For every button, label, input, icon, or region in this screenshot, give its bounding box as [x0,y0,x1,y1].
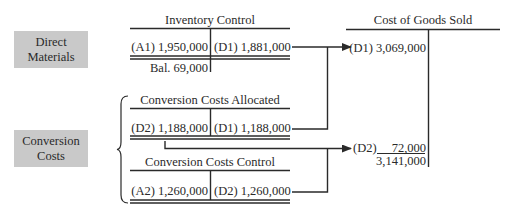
direct-materials-line2: Materials [27,50,74,65]
d1-cca-connector [292,47,328,129]
cogs-d2-amount: 72,000 [376,141,426,155]
d2-arrow [165,141,351,149]
conversion-costs-line1: Conversion [22,134,80,149]
cca-credit: (D1) 1,188,000 [214,121,291,135]
cogs-d1-entry: (D1) 3,069,000 [346,41,426,55]
cogs-d2-label: (D2) [353,141,377,155]
brace-icon [117,96,128,203]
conversion-costs-line2: Costs [37,149,65,164]
conversion-costs-box: Conversion Costs [14,130,88,167]
inventory-control-credit: (D1) 1,881,000 [214,40,291,54]
ccc-credit: (D2) 1,260,000 [214,184,291,198]
inventory-control-debit: (A1) 1,950,000 [128,40,208,54]
ccc-debit: (A2) 1,260,000 [128,184,208,198]
cca-debit: (D2) 1,188,000 [128,121,208,135]
inventory-control-title: Inventory Control [130,13,290,27]
direct-materials-box: Direct Materials [14,31,88,68]
inventory-control-balance: Bal. 69,000 [128,61,208,75]
cogs-title: Cost of Goods Sold [346,13,500,27]
direct-materials-line1: Direct [35,35,66,50]
cogs-total: 3,141,000 [366,154,426,168]
d2-ccc-connector [292,149,328,193]
ccc-title: Conversion Costs Control [130,155,290,169]
cca-title: Conversion Costs Allocated [130,93,290,107]
